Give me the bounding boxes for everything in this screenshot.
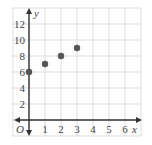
- x-tick-label: 2: [58, 123, 64, 135]
- scatter-chart: 12345624681012 y x O: [0, 0, 152, 145]
- origin-label: O: [16, 123, 24, 135]
- y-tick-label: 2: [20, 98, 26, 110]
- x-axis-label: x: [131, 123, 137, 135]
- y-tick-label: 10: [14, 34, 26, 46]
- y-tick-label: 6: [20, 66, 26, 78]
- x-tick-label: 3: [74, 123, 80, 135]
- y-tick-label: 8: [20, 50, 26, 62]
- tick-labels: 12345624681012: [14, 18, 128, 135]
- y-axis-down-arrow-icon: [26, 130, 32, 136]
- x-tick-label: 4: [90, 123, 96, 135]
- y-tick-label: 12: [14, 18, 25, 30]
- data-point: [26, 69, 32, 75]
- y-tick-label: 4: [20, 82, 26, 94]
- data-point: [58, 53, 64, 59]
- data-point: [42, 61, 48, 67]
- y-axis-up-arrow-icon: [26, 8, 32, 14]
- x-tick-label: 6: [122, 123, 128, 135]
- data-point: [74, 45, 80, 51]
- y-axis-label: y: [33, 7, 39, 19]
- data-points: [26, 45, 80, 75]
- x-tick-label: 5: [106, 123, 112, 135]
- x-tick-label: 1: [42, 123, 48, 135]
